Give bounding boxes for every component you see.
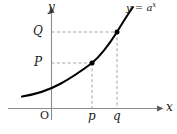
guide-lines-q [52,32,118,109]
y-axis-label: y [48,1,55,13]
curve-equation-exponent: x [152,1,156,9]
x-axis-arrowhead [157,105,164,111]
origin-label: O [40,110,49,121]
y-tick-label-Q: Q [33,25,43,37]
curve-equation-label: y = ax [126,2,156,13]
x-axis [8,105,164,111]
x-tick-label-q: q [113,110,121,122]
exponential-curve [22,7,133,97]
curve-equation-base: y = a [126,2,152,13]
x-axis-label: x [166,101,173,113]
point-q-marker [115,30,120,35]
point-p-marker [90,61,95,66]
x-tick-label-p: p [88,110,96,122]
y-tick-label-P: P [34,56,42,68]
exponential-function-figure: y x O Q P p q y = ax [0,0,177,134]
